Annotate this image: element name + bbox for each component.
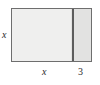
left-region-shaded [12, 9, 72, 61]
height-label-x: x [2, 30, 6, 40]
vertical-divider-line [72, 9, 74, 61]
outer-rectangle [11, 8, 92, 62]
geometry-figure: x x 3 [0, 0, 100, 85]
left-width-label-x: x [42, 67, 46, 77]
right-region-shaded [71, 9, 91, 61]
right-width-label-3: 3 [78, 67, 83, 77]
